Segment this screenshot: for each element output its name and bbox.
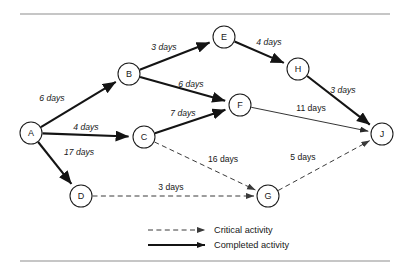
- edge-label-b-f: 6 days: [178, 79, 204, 89]
- node-g[interactable]: G: [257, 185, 279, 207]
- node-label-d: D: [78, 191, 85, 201]
- edge-label-h-j: 3 days: [330, 85, 356, 95]
- edge-label-c-g: 16 days: [208, 154, 238, 164]
- edges-layer: [38, 42, 370, 196]
- edge-label-f-j: 11 days: [296, 103, 325, 113]
- node-label-j: J: [380, 129, 385, 139]
- legend-item-completed: Completed activity: [148, 240, 289, 250]
- node-label-g: G: [264, 191, 271, 201]
- edge-label-e-h: 4 days: [256, 37, 282, 47]
- node-label-h: H: [295, 64, 302, 74]
- edge-label-g-j: 5 days: [290, 152, 315, 162]
- node-f[interactable]: F: [229, 94, 251, 116]
- legend-item-critical: Critical activity: [148, 225, 273, 235]
- edge-label-a-d: 17 days: [64, 147, 95, 157]
- node-label-c: C: [141, 132, 148, 142]
- node-j[interactable]: J: [371, 123, 393, 145]
- node-e[interactable]: E: [213, 26, 235, 48]
- edge-a-to-c: [42, 133, 128, 136]
- edge-a-to-b: [41, 82, 116, 127]
- network-diagram-canvas: ABCDEFGHJ 6 days4 days17 days3 days6 day…: [0, 0, 409, 273]
- node-label-a: A: [28, 128, 34, 138]
- edge-label-d-g: 3 days: [158, 182, 183, 192]
- network-diagram-figure: ABCDEFGHJ 6 days4 days17 days3 days6 day…: [0, 0, 409, 273]
- legend-label-completed: Completed activity: [214, 240, 289, 250]
- legend: Critical activityCompleted activity: [148, 225, 289, 250]
- legend-label-critical: Critical activity: [214, 225, 273, 235]
- edge-label-b-e: 3 days: [151, 42, 177, 52]
- node-label-b: B: [126, 69, 132, 79]
- node-label-e: E: [221, 32, 227, 42]
- node-c[interactable]: C: [133, 126, 155, 148]
- edge-h-to-j: [307, 76, 370, 125]
- node-label-f: F: [237, 100, 243, 110]
- node-b[interactable]: B: [118, 63, 140, 85]
- edge-label-a-b: 6 days: [39, 93, 65, 103]
- node-a[interactable]: A: [20, 122, 42, 144]
- edge-g-to-j: [278, 141, 370, 191]
- node-d[interactable]: D: [70, 185, 92, 207]
- edge-label-a-c: 4 days: [73, 122, 99, 132]
- edge-label-c-f: 7 days: [170, 108, 196, 118]
- node-h[interactable]: H: [287, 58, 309, 80]
- edge-labels-layer: 6 days4 days17 days3 days6 days7 days16 …: [39, 37, 356, 192]
